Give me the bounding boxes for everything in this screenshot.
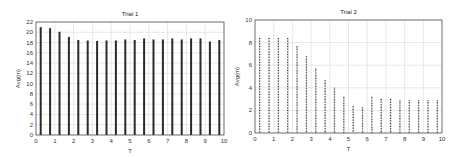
- y-axis-label: Avg(m): [15, 69, 21, 88]
- y-tick-label: 8: [249, 40, 253, 46]
- x-tick-label: 10: [439, 136, 446, 142]
- x-tick-label: 5: [347, 136, 351, 142]
- y-tick-label: 8: [30, 91, 34, 97]
- x-tick-label: 7: [384, 136, 388, 142]
- x-tick-label: 1: [272, 136, 276, 142]
- bar: [171, 38, 173, 135]
- x-axis-label: T: [347, 146, 351, 152]
- y-tick-label: 2: [30, 122, 34, 128]
- y-tick-label: 4: [249, 85, 253, 91]
- x-tick-label: 8: [403, 136, 407, 142]
- bar: [68, 37, 70, 135]
- y-tick-label: 2: [249, 107, 253, 113]
- x-tick-label: 10: [221, 138, 228, 144]
- bar: [218, 40, 220, 135]
- y-tick-label: 6: [249, 62, 253, 68]
- x-tick-label: 7: [166, 138, 170, 144]
- x-tick-label: 8: [185, 138, 189, 144]
- y-tick-label: 10: [245, 17, 252, 23]
- y-tick-label: 22: [26, 19, 33, 25]
- x-axis-label: T: [128, 148, 132, 154]
- bar: [134, 40, 136, 135]
- bar: [49, 28, 51, 135]
- bar: [190, 38, 192, 135]
- bar: [59, 32, 61, 135]
- chart-trial-1: Trial 10123456789100246810121416182022TA…: [0, 0, 228, 157]
- bar: [181, 39, 183, 135]
- chart-trial-1-svg: Trial 10123456789100246810121416182022TA…: [0, 0, 228, 157]
- y-tick-label: 20: [26, 29, 33, 35]
- bar: [200, 38, 202, 135]
- x-tick-label: 1: [53, 138, 57, 144]
- y-tick-label: 16: [26, 50, 33, 56]
- bar: [96, 41, 98, 135]
- chart-trial-2-svg: Trial 20123456789100246810TAvg(m): [228, 0, 456, 157]
- y-tick-label: 18: [26, 40, 33, 46]
- chart-title: Trial 2: [340, 9, 357, 15]
- x-tick-label: 3: [91, 138, 95, 144]
- x-tick-label: 0: [253, 136, 257, 142]
- y-tick-label: 14: [26, 60, 33, 66]
- bar: [106, 40, 108, 135]
- x-tick-label: 2: [72, 138, 76, 144]
- bar: [143, 38, 145, 135]
- x-tick-label: 9: [204, 138, 208, 144]
- bar: [87, 40, 89, 135]
- bar: [162, 39, 164, 135]
- x-tick-label: 4: [328, 136, 332, 142]
- y-tick-label: 6: [30, 101, 34, 107]
- bar: [209, 42, 211, 135]
- x-tick-label: 4: [110, 138, 114, 144]
- x-tick-label: 0: [34, 138, 38, 144]
- bar: [77, 40, 79, 135]
- bar: [153, 39, 155, 135]
- x-tick-label: 6: [366, 136, 370, 142]
- y-tick-label: 10: [26, 81, 33, 87]
- y-tick-label: 0: [249, 130, 253, 136]
- x-tick-label: 9: [422, 136, 426, 142]
- bar: [40, 27, 42, 135]
- y-tick-label: 12: [26, 70, 33, 76]
- chart-title: Trial 1: [122, 11, 139, 17]
- bar: [115, 40, 117, 135]
- x-tick-label: 6: [147, 138, 151, 144]
- chart-trial-2: Trial 20123456789100246810TAvg(m): [228, 0, 456, 157]
- y-tick-label: 4: [30, 111, 34, 117]
- x-tick-label: 2: [291, 136, 295, 142]
- x-tick-label: 3: [309, 136, 313, 142]
- y-tick-label: 0: [30, 132, 34, 138]
- bar: [124, 39, 126, 135]
- y-axis-label: Avg(m): [234, 67, 240, 86]
- x-tick-label: 5: [128, 138, 132, 144]
